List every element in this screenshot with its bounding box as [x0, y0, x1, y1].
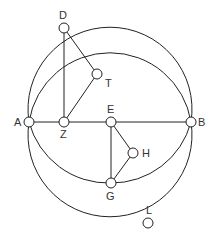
geometry-diagram: A B D T Z E H G L: [0, 0, 218, 245]
label-z: Z: [60, 128, 67, 140]
label-a: A: [14, 116, 22, 128]
label-h: H: [142, 147, 150, 159]
point-g: [106, 178, 116, 188]
label-e: E: [107, 103, 114, 115]
label-d: D: [59, 9, 67, 21]
point-d: [59, 23, 69, 33]
point-e: [106, 117, 116, 127]
label-g: G: [106, 190, 115, 202]
label-l: L: [146, 204, 152, 216]
label-t: T: [105, 77, 112, 89]
segment-tz: [64, 74, 97, 122]
point-b: [186, 117, 196, 127]
point-z: [59, 117, 69, 127]
point-a: [24, 117, 34, 127]
segment-eh: [111, 122, 133, 153]
point-l: [143, 218, 153, 228]
label-b: B: [198, 116, 205, 128]
segment-hg: [111, 153, 133, 183]
point-h: [128, 148, 138, 158]
point-t: [92, 69, 102, 79]
segment-dt: [64, 28, 97, 74]
